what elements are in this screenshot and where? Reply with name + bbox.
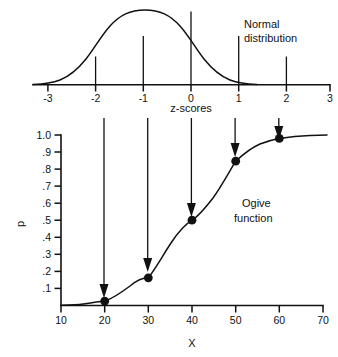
connector-arrow-head-30 — [143, 258, 152, 272]
p-tick-label-.8: .8 — [42, 163, 51, 175]
ogive-point-x50 — [231, 157, 240, 166]
ogive-annotation-line-2: function — [234, 212, 273, 224]
z-tick-label-2: 2 — [283, 92, 289, 104]
ogive-panel: 1.0 .9 .8 .7 .6 .5 .4 .3 .2 .1 p 10 20 3… — [14, 129, 329, 349]
z-tick-label-3: 3 — [327, 92, 333, 104]
p-tick-label-.5: .5 — [42, 214, 51, 226]
p-tick-label-.1: .1 — [42, 282, 51, 294]
ogive-point-x40 — [188, 216, 197, 225]
connector-arrow-head-20 — [100, 284, 109, 298]
p-axis-title: p — [14, 221, 26, 227]
figure-canvas: -3 -2 -1 0 1 2 3 z-scores Normal distrib… — [0, 0, 338, 357]
z-tick-label--1: -1 — [139, 92, 148, 104]
p-tick-label-.6: .6 — [42, 197, 51, 209]
ogive-point-x60 — [275, 134, 284, 143]
statistics-figure: -3 -2 -1 0 1 2 3 z-scores Normal distrib… — [0, 0, 338, 357]
ogive-point-x30 — [144, 273, 153, 282]
x-tick-label-20: 20 — [99, 314, 111, 326]
p-tick-label-1.0: 1.0 — [36, 129, 51, 141]
connector-arrow-head-40 — [187, 203, 196, 217]
ogive-annotation-line-1: Ogive — [242, 197, 271, 209]
z-tick-label--3: -3 — [43, 92, 52, 104]
normal-distribution-panel: -3 -2 -1 0 1 2 3 z-scores Normal distrib… — [33, 10, 333, 114]
x-tick-label-60: 60 — [273, 314, 285, 326]
x-tick-label-30: 30 — [142, 314, 154, 326]
ogive-point-x20 — [100, 297, 109, 306]
z-axis-title: z-scores — [170, 102, 212, 114]
p-tick-label-.7: .7 — [42, 180, 51, 192]
x-tick-label-50: 50 — [230, 314, 242, 326]
normal-distribution-annotation-line-2: distribution — [244, 32, 297, 44]
p-tick-label-.3: .3 — [42, 248, 51, 260]
normal-distribution-annotation-line-1: Normal — [244, 18, 279, 30]
p-tick-label-.2: .2 — [42, 265, 51, 277]
x-tick-label-40: 40 — [186, 314, 198, 326]
x-tick-label-70: 70 — [317, 314, 329, 326]
x-axis-title: X — [188, 337, 196, 349]
p-tick-label-.4: .4 — [42, 231, 51, 243]
z-tick-label--2: -2 — [91, 92, 100, 104]
p-tick-label-.9: .9 — [42, 146, 51, 158]
normal-density-curve — [33, 10, 257, 85]
connector-arrow-head-50 — [231, 143, 240, 157]
z-tick-label-1: 1 — [236, 92, 242, 104]
x-tick-label-10: 10 — [55, 314, 67, 326]
